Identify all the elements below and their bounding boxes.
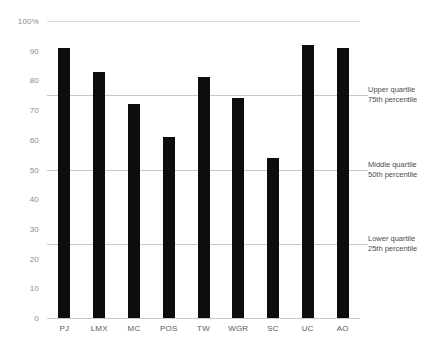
bar	[267, 158, 279, 318]
bar	[93, 72, 105, 319]
annotation-subtitle: 25th percentile	[368, 244, 417, 254]
x-axis-category-label: UC	[302, 324, 314, 333]
y-axis-tick-label: 100%	[18, 17, 39, 26]
x-axis-category-label: MC	[128, 324, 141, 333]
bar	[163, 137, 175, 318]
bar	[58, 48, 70, 318]
bar	[232, 98, 244, 318]
bar	[302, 45, 314, 318]
x-axis-category-label: PJ	[60, 324, 70, 333]
reference-line-annotation: Lower quartile25th percentile	[368, 234, 417, 254]
reference-line-annotation: Upper quartile75th percentile	[368, 85, 417, 105]
annotation-title: Upper quartile	[368, 85, 417, 95]
y-axis-tick-label: 90	[30, 46, 39, 55]
y-axis-tick-label: 40	[30, 195, 39, 204]
bar-series	[47, 21, 360, 318]
y-axis-tick-label: 80	[30, 76, 39, 85]
bar-chart: 100%9080706050403020100 PJLMXMCPOSTWWGRS…	[0, 0, 441, 353]
y-axis: 100%9080706050403020100	[0, 0, 47, 353]
y-axis-tick-label: 10	[30, 284, 39, 293]
annotation-title: Lower quartile	[368, 234, 417, 244]
x-axis-category-label: SC	[267, 324, 279, 333]
x-axis-category-label: TW	[197, 324, 210, 333]
y-axis-tick-label: 20	[30, 254, 39, 263]
annotation-subtitle: 50th percentile	[368, 170, 417, 180]
x-axis-category-label: AO	[337, 324, 349, 333]
bar	[128, 104, 140, 318]
y-axis-tick-label: 50	[30, 165, 39, 174]
annotation-title: Middle quartile	[368, 160, 417, 170]
x-axis: PJLMXMCPOSTWWGRSCUCAO	[47, 322, 360, 342]
y-axis-tick-label: 70	[30, 106, 39, 115]
y-axis-tick-label: 0	[34, 314, 39, 323]
y-axis-tick-label: 30	[30, 224, 39, 233]
reference-line-annotation: Middle quartile50th percentile	[368, 160, 417, 180]
x-axis-category-label: POS	[160, 324, 178, 333]
plot-area	[47, 21, 360, 318]
y-axis-tick-label: 60	[30, 135, 39, 144]
annotation-subtitle: 75th percentile	[368, 95, 417, 105]
x-axis-category-label: WGR	[228, 324, 248, 333]
bar	[337, 48, 349, 318]
bar	[198, 77, 210, 318]
x-axis-category-label: LMX	[91, 324, 108, 333]
axis-baseline	[47, 318, 360, 319]
